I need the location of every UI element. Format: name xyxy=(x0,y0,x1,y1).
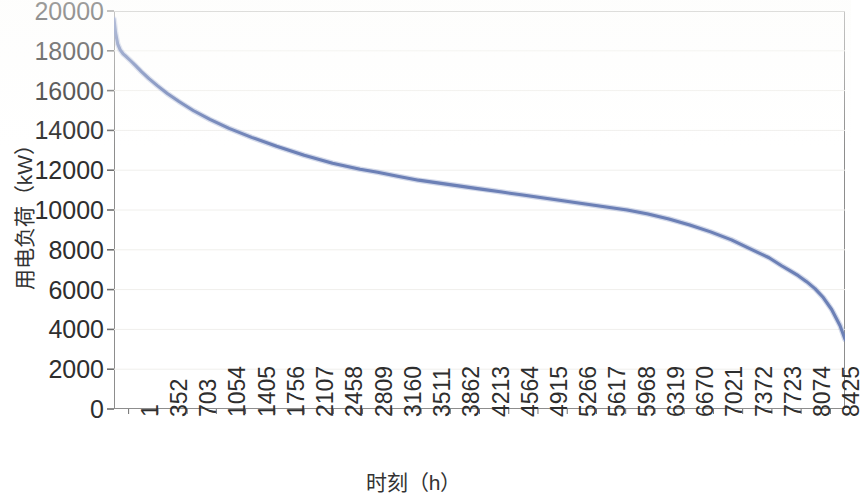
x-tick-label: 352 xyxy=(166,379,193,417)
x-axis-title: 时刻（h） xyxy=(0,466,851,496)
x-tick-label: 6319 xyxy=(663,366,690,417)
x-tick-label: 7021 xyxy=(721,366,748,417)
x-axis-title-text: 时刻（h） xyxy=(366,471,462,494)
x-tick-label: 8425 xyxy=(838,366,864,417)
x-tick-label: 5968 xyxy=(634,366,661,417)
x-tick-label: 8074 xyxy=(809,366,836,417)
x-tick-label: 2107 xyxy=(312,366,339,417)
x-tick-label: 1405 xyxy=(254,366,281,417)
x-tick-label: 4915 xyxy=(546,366,573,417)
x-tick-label: 3511 xyxy=(429,368,456,417)
x-tick-label: 4213 xyxy=(488,366,515,417)
x-tick-label: 2458 xyxy=(341,366,368,417)
x-tick-label: 1756 xyxy=(283,366,310,417)
x-tick-label: 1054 xyxy=(224,366,251,417)
x-tick-label: 7372 xyxy=(751,366,778,417)
x-tick-label: 2809 xyxy=(371,366,398,417)
x-tick-label: 703 xyxy=(195,379,222,417)
x-tick-label: 5617 xyxy=(604,366,631,417)
x-tick-label: 6670 xyxy=(692,366,719,417)
x-tick-label: 3862 xyxy=(458,366,485,417)
x-tick-label: 5266 xyxy=(575,366,602,417)
x-tick-label: 3160 xyxy=(400,366,427,417)
x-tick-label: 7723 xyxy=(780,366,807,417)
x-tick-label: 1 xyxy=(137,404,164,417)
x-tick-label: 4564 xyxy=(517,366,544,417)
